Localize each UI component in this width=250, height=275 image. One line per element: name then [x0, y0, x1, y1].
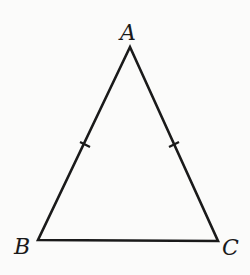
diagram-canvas: A B C: [0, 0, 250, 275]
triangle-abc: [38, 47, 218, 241]
vertex-label-a: A: [120, 22, 136, 44]
vertex-label-b: B: [14, 236, 30, 258]
vertex-label-c: C: [222, 237, 239, 259]
